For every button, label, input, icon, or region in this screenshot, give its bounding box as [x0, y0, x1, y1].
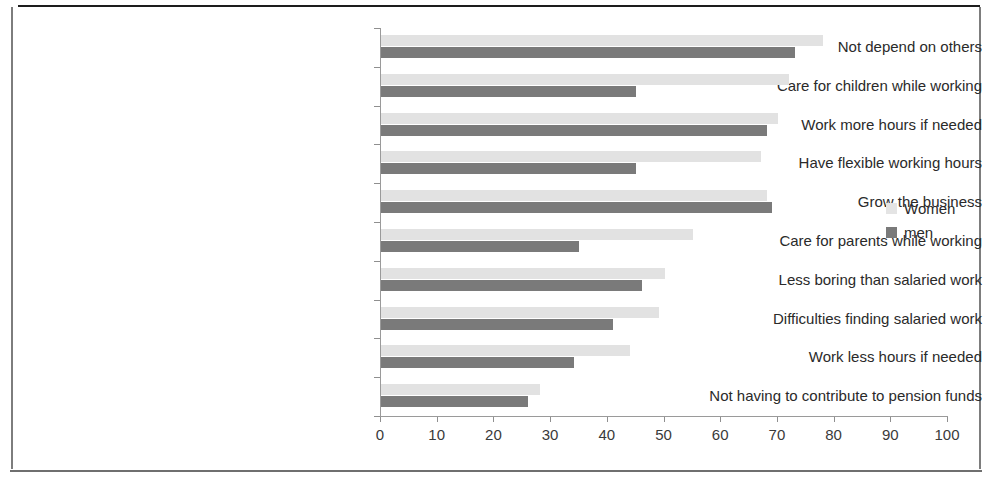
bar-men	[381, 47, 795, 58]
legend-item-men: men	[886, 220, 955, 244]
y-axis-tick	[374, 377, 380, 378]
category-label: Less boring than salaried work	[620, 271, 990, 288]
x-axis-tick	[493, 417, 494, 422]
x-axis-tick-label: 20	[463, 426, 523, 443]
x-axis-tick-label: 50	[634, 426, 694, 443]
bar-women	[381, 74, 789, 85]
x-axis-tick-label: 90	[860, 426, 920, 443]
y-axis-tick	[374, 67, 380, 68]
x-axis-tick-label: 80	[804, 426, 864, 443]
bar-women	[381, 113, 778, 124]
x-axis-tick	[777, 417, 778, 422]
bar-men	[381, 125, 767, 136]
x-axis-tick	[664, 417, 665, 422]
bar-women	[381, 384, 540, 395]
y-axis-tick	[374, 222, 380, 223]
bar-women	[381, 35, 823, 46]
x-axis-tick	[607, 417, 608, 422]
y-axis-tick	[374, 416, 380, 417]
bar-men	[381, 163, 636, 174]
horizontal-bar-chart: 0102030405060708090100 Not depend on oth…	[0, 0, 990, 482]
x-axis-tick-label: 0	[350, 426, 410, 443]
x-axis-tick-label: 60	[690, 426, 750, 443]
x-axis-tick-label: 100	[917, 426, 977, 443]
chart-page: 0102030405060708090100 Not depend on oth…	[0, 0, 990, 482]
legend-label-men: men	[904, 224, 933, 241]
bar-women	[381, 229, 693, 240]
category-label: Difficulties finding salaried work	[620, 310, 990, 327]
y-axis-tick	[374, 144, 380, 145]
bar-men	[381, 202, 772, 213]
legend-item-women: Women	[886, 196, 955, 220]
x-axis-tick	[437, 417, 438, 422]
bar-women	[381, 268, 665, 279]
x-axis-tick-label: 10	[407, 426, 467, 443]
x-axis-tick	[890, 417, 891, 422]
y-axis-tick	[374, 28, 380, 29]
x-axis-tick	[380, 417, 381, 422]
x-axis-tick-label: 30	[520, 426, 580, 443]
bar-women	[381, 307, 659, 318]
x-axis-tick-label: 40	[577, 426, 637, 443]
bar-men	[381, 357, 574, 368]
category-label: Not having to contribute to pension fund…	[620, 387, 990, 404]
legend-swatch-women-icon	[886, 203, 897, 214]
legend-swatch-men-icon	[886, 227, 897, 238]
x-axis-tick	[834, 417, 835, 422]
y-axis-tick	[374, 300, 380, 301]
x-axis-tick-label: 70	[747, 426, 807, 443]
bar-men	[381, 319, 613, 330]
bar-men	[381, 396, 528, 407]
y-axis-tick	[374, 106, 380, 107]
bar-women	[381, 190, 767, 201]
y-axis-tick	[374, 261, 380, 262]
bar-men	[381, 86, 636, 97]
bar-men	[381, 241, 579, 252]
y-axis-tick	[374, 338, 380, 339]
y-axis-tick	[374, 183, 380, 184]
x-axis-tick	[550, 417, 551, 422]
chart-legend: Women men	[886, 196, 955, 244]
bar-men	[381, 280, 642, 291]
legend-label-women: Women	[904, 200, 955, 217]
bar-women	[381, 345, 630, 356]
bar-women	[381, 151, 761, 162]
x-axis-tick	[720, 417, 721, 422]
x-axis-tick	[947, 417, 948, 422]
category-label: Work less hours if needed	[620, 348, 990, 365]
